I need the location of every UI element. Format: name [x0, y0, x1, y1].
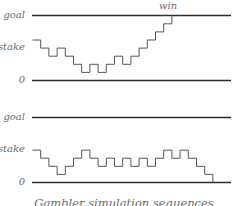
panel-win: goal stake 0 win [0, 0, 231, 85]
stake-label: stake [0, 143, 25, 154]
zero-label: 0 [19, 74, 26, 85]
goal-label: goal [3, 9, 25, 20]
win-annotation: win [159, 0, 177, 11]
random-walk-path [33, 16, 172, 73]
figure-caption: Gambler simulation sequences [34, 196, 214, 206]
zero-label: 0 [19, 176, 26, 187]
random-walk-path [33, 150, 213, 182]
gambler-diagram: goal stake 0 win goal stake 0 Gambler si… [0, 0, 232, 206]
goal-label: goal [3, 111, 25, 122]
stake-label: stake [0, 41, 25, 52]
panel-lose: goal stake 0 [0, 111, 231, 187]
